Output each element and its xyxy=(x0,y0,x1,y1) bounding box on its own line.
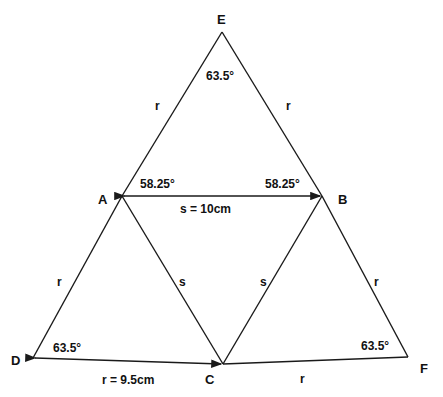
edge-CF xyxy=(223,357,408,364)
point-E-label: E xyxy=(217,12,226,27)
edge-BC xyxy=(223,196,322,364)
side-EB-label: r xyxy=(286,99,291,113)
edge-AD xyxy=(33,196,122,358)
side-DC-label: r = 9.5cm xyxy=(102,373,154,387)
point-F-label: F xyxy=(420,361,428,376)
angle-D-label: 63.5° xyxy=(53,341,81,355)
point-B-label: B xyxy=(338,192,347,207)
edge-AC xyxy=(122,196,223,364)
edge-EB xyxy=(222,32,322,196)
angle-E-label: 63.5° xyxy=(206,69,234,83)
angle-F-label: 63.5° xyxy=(361,339,389,353)
edge-EA xyxy=(122,32,222,196)
side-AB-label: s = 10cm xyxy=(180,202,231,216)
point-C-label: C xyxy=(205,372,215,387)
edge-BF xyxy=(322,196,408,357)
point-A-label: A xyxy=(98,192,108,207)
side-EA-label: r xyxy=(155,99,160,113)
triangle-diagram: E A B D C F 63.5° 58.25° 58.25° 63.5° 63… xyxy=(0,0,443,397)
point-D-label: D xyxy=(11,353,20,368)
side-AD-label: r xyxy=(57,275,62,289)
angle-A-label: 58.25° xyxy=(140,177,175,191)
side-AC-label: s xyxy=(179,275,186,289)
side-CF-label: r xyxy=(300,372,305,386)
dimension-DC xyxy=(35,358,221,364)
angle-B-label: 58.25° xyxy=(265,177,300,191)
side-BC-label: s xyxy=(260,275,267,289)
side-BF-label: r xyxy=(374,275,379,289)
